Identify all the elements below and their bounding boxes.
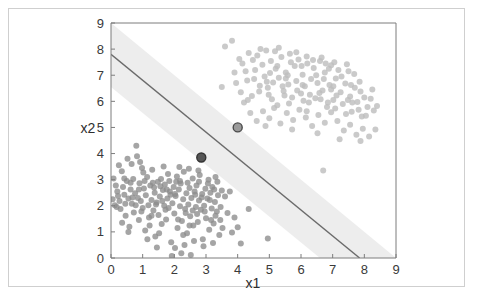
x-tick-label: 8 <box>361 262 368 277</box>
x-tick-label: 2 <box>171 262 178 277</box>
y-tick-label: 8 <box>97 42 104 57</box>
x-axis-title: x1 <box>246 275 261 291</box>
x-tick-label: 3 <box>202 262 209 277</box>
y-tick-label: 4 <box>97 146 104 161</box>
y-tick-label: 9 <box>97 16 104 31</box>
y-tick-label: 1 <box>97 224 104 239</box>
x-tick-label: 4 <box>234 262 241 277</box>
y-tick-label: 2 <box>97 198 104 213</box>
x-tick-label: 0 <box>107 262 114 277</box>
y-tick-label: 3 <box>97 172 104 187</box>
x-tick-label: 1 <box>139 262 146 277</box>
x-tick-label: 5 <box>266 262 273 277</box>
scatter-plot: 0123456789 0123456789 x1 x2 <box>0 0 483 301</box>
y-tick-label: 7 <box>97 68 104 83</box>
y-tick-label: 5 <box>97 120 104 135</box>
y-tick-label: 0 <box>97 251 104 266</box>
y-tick-label: 6 <box>97 94 104 109</box>
y-axis-title: x2 <box>81 120 96 136</box>
x-tick-label: 9 <box>392 262 399 277</box>
figure-root: 0123456789 0123456789 x1 x2 <box>0 0 483 301</box>
x-tick-label: 7 <box>329 262 336 277</box>
x-tick-label: 6 <box>297 262 304 277</box>
